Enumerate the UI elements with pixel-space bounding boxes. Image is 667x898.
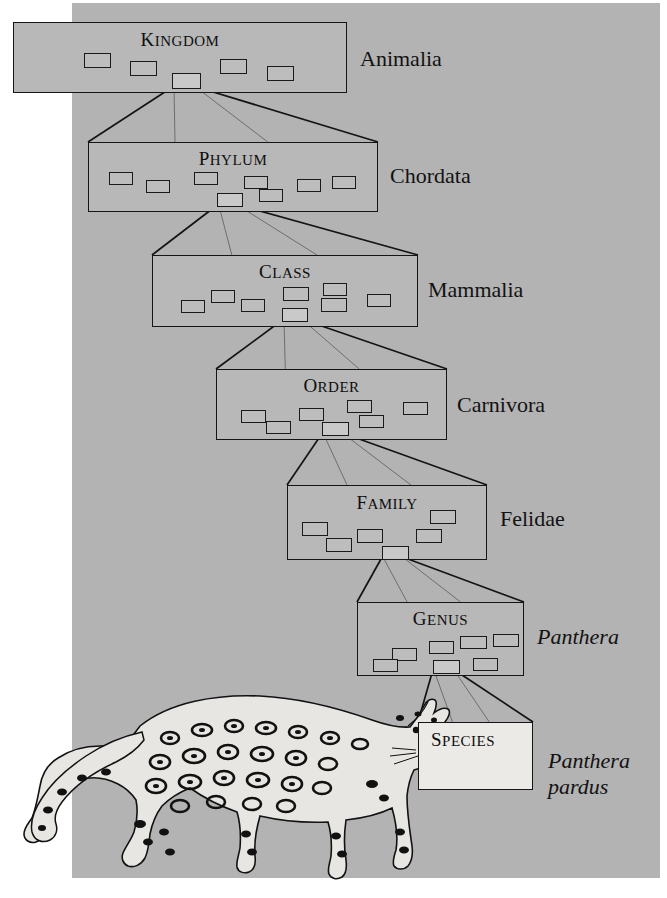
member-rect-phylum-5[interactable]: [332, 176, 356, 189]
member-rect-phylum-4[interactable]: [297, 179, 321, 192]
member-rect-genus-3[interactable]: [493, 634, 519, 647]
member-rect-kingdom-3[interactable]: [267, 66, 294, 81]
member-rect-phylum-1[interactable]: [146, 180, 170, 193]
member-rect-genus-4[interactable]: [373, 659, 398, 672]
rank-title-initial: G: [413, 608, 427, 629]
connector-line-order-family: [345, 435, 411, 485]
member-rect-family-0[interactable]: [302, 522, 328, 536]
connector-line-family-genus: [357, 559, 381, 602]
selected-member-rect-family[interactable]: [382, 546, 409, 560]
connector-line-class-order: [284, 321, 285, 369]
member-rect-family-1[interactable]: [326, 538, 352, 552]
rank-title-smallcaps: ENUS: [427, 612, 468, 628]
member-rect-order-5[interactable]: [403, 402, 428, 415]
selected-member-rect-phylum[interactable]: [217, 193, 243, 207]
taxonomy-diagram: KINGDOMPHYLUMCLASSORDERFAMILYGENUSSPECIE…: [0, 0, 667, 898]
member-rect-order-3[interactable]: [347, 400, 372, 413]
selected-member-rect-order[interactable]: [322, 422, 349, 436]
rank-title-initial: P: [199, 148, 210, 169]
selected-member-rect-kingdom[interactable]: [172, 73, 201, 89]
connector-line-phylum-class: [152, 206, 216, 255]
connector-line-genus-species: [456, 673, 489, 722]
rank-box-phylum[interactable]: PHYLUM: [88, 142, 378, 212]
rank-title-smallcaps: RDER: [318, 379, 360, 395]
connector-line-class-order: [216, 321, 281, 369]
taxon-label-genus: Panthera: [537, 624, 619, 650]
connector-line-order-family: [324, 435, 347, 485]
rank-title-smallcaps: PECIES: [442, 733, 495, 749]
taxon-label-class: Mammalia: [428, 277, 523, 303]
rank-box-order[interactable]: ORDER: [216, 369, 447, 440]
taxon-label-family: Felidae: [500, 506, 565, 532]
connector-line-kingdom-phylum: [197, 88, 268, 142]
connector-line-family-genus: [405, 559, 461, 602]
member-rect-order-2[interactable]: [299, 408, 324, 421]
member-rect-order-1[interactable]: [266, 421, 291, 434]
member-rect-family-2[interactable]: [357, 529, 383, 543]
selected-member-rect-genus[interactable]: [433, 660, 460, 674]
rank-title-family: FAMILY: [288, 492, 486, 514]
connector-line-family-genus: [408, 559, 524, 602]
member-rect-kingdom-2[interactable]: [220, 59, 247, 74]
rank-title-species: SPECIES: [419, 729, 532, 751]
rank-box-genus[interactable]: GENUS: [357, 602, 524, 676]
taxon-label-line1: Panthera: [548, 748, 630, 774]
member-rect-phylum-2[interactable]: [194, 172, 218, 185]
member-rect-class-6[interactable]: [367, 294, 391, 307]
rank-title-initial: C: [259, 261, 272, 282]
connector-line-phylum-class: [219, 206, 232, 255]
member-rect-kingdom-0[interactable]: [84, 53, 111, 68]
taxon-label-line2: pardus: [548, 774, 630, 800]
rank-title-phylum: PHYLUM: [89, 148, 377, 170]
taxon-label-species: Pantherapardus: [548, 748, 630, 800]
taxon-label-kingdom: Animalia: [360, 46, 442, 72]
member-rect-class-0[interactable]: [181, 300, 205, 313]
rank-title-smallcaps: INGDOM: [155, 33, 220, 49]
member-rect-family-4[interactable]: [430, 510, 456, 524]
member-rect-genus-2[interactable]: [460, 636, 487, 649]
member-rect-class-2[interactable]: [241, 299, 265, 312]
connector-line-order-family: [287, 435, 321, 485]
member-rect-class-5[interactable]: [321, 298, 347, 312]
rank-box-family[interactable]: FAMILY: [287, 485, 487, 560]
rank-box-kingdom[interactable]: KINGDOM: [13, 22, 347, 93]
member-rect-phylum-6[interactable]: [259, 189, 283, 202]
connector-line-kingdom-phylum: [200, 88, 378, 142]
selected-member-rect-class[interactable]: [282, 308, 308, 322]
member-rect-class-3[interactable]: [283, 287, 309, 301]
connector-line-order-family: [348, 435, 487, 485]
rank-title-initial: O: [303, 375, 317, 396]
connector-line-kingdom-phylum: [174, 88, 175, 142]
connector-line-phylum-class: [239, 206, 317, 255]
rank-title-initial: K: [141, 29, 155, 50]
member-rect-family-3[interactable]: [416, 529, 442, 543]
taxon-label-phylum: Chordata: [390, 163, 471, 189]
leopard-illustration: [24, 696, 458, 879]
connector-line-class-order: [307, 321, 447, 369]
member-rect-class-4[interactable]: [323, 283, 347, 296]
rank-title-initial: F: [356, 492, 367, 513]
connector-line-family-genus: [384, 559, 407, 602]
connector-line-kingdom-phylum: [88, 88, 171, 142]
rank-title-genus: GENUS: [358, 608, 523, 630]
rank-title-initial: S: [431, 729, 442, 750]
rank-title-order: ORDER: [217, 375, 446, 397]
member-rect-order-4[interactable]: [359, 415, 384, 428]
rank-box-species[interactable]: SPECIES: [418, 722, 533, 790]
rank-title-smallcaps: HYLUM: [210, 152, 268, 168]
rank-title-smallcaps: AMILY: [367, 496, 417, 512]
rank-title-class: CLASS: [153, 261, 417, 283]
rank-title-kingdom: KINGDOM: [14, 29, 346, 51]
member-rect-phylum-0[interactable]: [109, 172, 133, 185]
member-rect-phylum-3[interactable]: [244, 176, 268, 189]
connector-line-class-order: [304, 321, 359, 369]
rank-title-smallcaps: LASS: [272, 265, 311, 281]
member-rect-genus-1[interactable]: [429, 641, 454, 654]
rank-box-class[interactable]: CLASS: [152, 255, 418, 327]
member-rect-class-1[interactable]: [211, 290, 235, 303]
connector-line-phylum-class: [242, 206, 418, 255]
member-rect-order-0[interactable]: [241, 410, 266, 423]
member-rect-genus-5[interactable]: [473, 658, 498, 671]
taxon-label-order: Carnivora: [457, 392, 545, 418]
member-rect-kingdom-1[interactable]: [130, 61, 157, 76]
